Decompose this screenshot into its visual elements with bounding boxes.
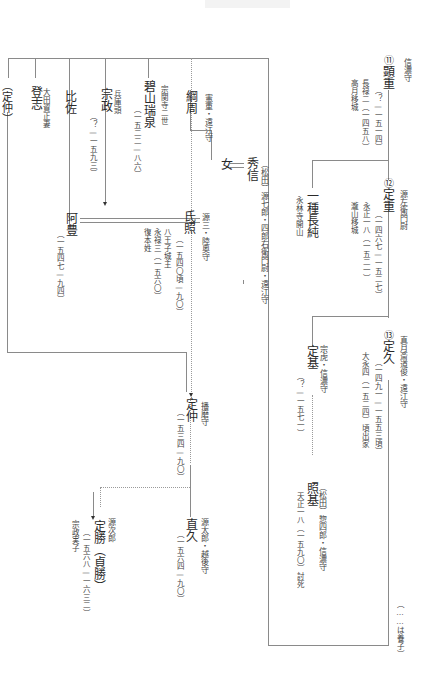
line-sadanaka-ref-top (8, 58, 9, 78)
toshi-name: 登志 (29, 86, 41, 110)
sadakatsu-note1: 宗政実子 (71, 520, 79, 552)
hisa-name: 比佐 (63, 90, 75, 114)
sadahisa-number: ⑬ (382, 330, 393, 340)
munemasa-title: 兵庫頭 (113, 90, 121, 114)
arrow-munemasa (103, 202, 107, 206)
sadanaka-years: （一五三四—九〇） (176, 408, 184, 481)
hidenobu-name: 秀信 (245, 157, 257, 181)
line-sadanaka-ref-bottom (7, 352, 187, 353)
sadahisa-note1: 大永四（一五二四）頃出家 (361, 352, 369, 448)
line-sadahisa-trunk (388, 380, 389, 646)
sadashige-note2: 瀧山移城 (350, 202, 358, 234)
munemasa-name: 宗政 (99, 88, 111, 112)
terumoto-note1: 天正一八（一五九〇）討死 (296, 492, 304, 588)
ahou-years: （一五四七—九四） (56, 230, 64, 303)
line-sadanaka-ref-join (186, 352, 187, 392)
line-sadamoto-drop (312, 316, 313, 346)
sadashige-years: （一四六七—一五二七） (374, 210, 382, 299)
line-sadanaka-ref-down (7, 112, 8, 353)
line-top-horizontal (8, 58, 268, 59)
line-sadakatsu-arrow (93, 492, 94, 518)
line-munemasa-drop (105, 58, 106, 203)
ujiteru-note1: 八王子城主 (163, 228, 171, 268)
line-top-right-drop (268, 58, 269, 160)
terumoto-title: （松田）惣四郎・信濃守 (317, 483, 325, 571)
akishige-note2: 高月移城 (350, 79, 358, 111)
line-left-trunk (268, 160, 269, 646)
adoption-line-sadakatsu (100, 487, 190, 488)
sadanaka-title: 播磨守 (199, 402, 207, 426)
tsunachika-name: 綱周 (184, 90, 196, 114)
sadamoto-name: 定基 (305, 345, 317, 369)
ujiteru-title: 源三・陸奥守 (200, 213, 208, 261)
sadashige-title: 源左衛門尉 (398, 190, 406, 230)
line-sadahisa-bottom (268, 645, 389, 646)
naohisa-name: 直久 (184, 518, 196, 542)
sadahisa-name: ⑬定久 (381, 330, 393, 364)
legend-adoption: （……は養子） (396, 600, 404, 658)
line-akishige-trunk (388, 90, 389, 180)
dotted-terumoto (312, 395, 313, 455)
line-branch-sadamoto (312, 316, 389, 317)
akishige-years: （？—一五一四） (374, 86, 382, 151)
ujiteru-years: （一五四〇頃—九〇） (175, 235, 183, 316)
sadashige-note1: 永正一八（一五二一） (362, 202, 370, 282)
sadanaka-ref-name: （定仲） (1, 80, 12, 124)
line-branch-nagazumi (312, 160, 389, 161)
sadahisa-years: （一四九一—一五五三頃） (374, 358, 382, 455)
sadashige-name: ⑫定重 (381, 178, 393, 212)
akishige-name: ⑪顕重 (381, 55, 393, 89)
onna-name: 女 (219, 158, 231, 170)
ahou-name: 阿豊 (64, 212, 76, 236)
ujiteru-name: 氏照 (182, 210, 194, 234)
nagazumi-note1: 永林寺開山 (295, 196, 303, 236)
tsunachika-title: 憲重・遠江守 (203, 94, 211, 142)
adoption-line-ujiteru (191, 210, 192, 390)
arrow-to-sadanaka (189, 393, 193, 397)
sadakatsu-years: （一五六八—一六三二） (82, 528, 90, 617)
marriage-line-onna-hidenobu (230, 163, 244, 168)
adoption-line-sadakatsu-drop (100, 487, 101, 507)
line-sadanaka-trunk (190, 465, 191, 495)
line-hidenobu-stub (243, 280, 244, 284)
munemasa-years: （？—一五九三） (89, 112, 97, 177)
terumoto-name: 照基 (305, 482, 317, 506)
line-toshi-drop (35, 58, 36, 78)
sadamoto-title: 宗虎・信濃守 (318, 345, 326, 393)
ujiteru-note3: 復本姓 (143, 228, 151, 252)
akishige-title: 信濃守 (402, 58, 410, 82)
ujiteru-note2: 永禄三（一五六〇） (153, 228, 161, 300)
akishige-note1: 長禄二（一四五八） (361, 79, 369, 151)
sadamoto-years: （？—一五七一） (296, 372, 304, 437)
line-sadashige-trunk (388, 210, 389, 318)
line-nagazumi-drop (312, 160, 313, 188)
akishige-number: ⑪ (382, 55, 393, 65)
sadanaka-name: 定仲 (184, 398, 196, 422)
zuisen-name: 碧山瑞泉 (142, 80, 154, 128)
naohisa-title: 源太郎・越後守 (199, 518, 207, 574)
sadahisa-title: 真月斎道俊・遠江守 (398, 336, 406, 408)
sadakatsu-title: 源次郎 (106, 518, 114, 542)
line-zuisen-drop (148, 58, 149, 78)
sadashige-number: ⑫ (382, 178, 393, 188)
naohisa-years: （一五六四—九〇） (176, 530, 184, 603)
hidenobu-title: （松田）源七郎・四郎右衛門尉・遠江守 (259, 160, 267, 304)
toshi-title: 大田資正妻 (42, 88, 50, 128)
zuisen-title: 宗関寺二世 (160, 85, 168, 125)
sadakatsu-name: 定勝（貞勝） (92, 520, 104, 592)
page-header-mark (205, 0, 290, 8)
line-naohisa-drop (190, 495, 191, 517)
zuisen-years: （一五二二—八六） (133, 105, 141, 178)
nagazumi-name: 一種長純 (305, 190, 317, 238)
line-hisa-drop (69, 58, 70, 228)
